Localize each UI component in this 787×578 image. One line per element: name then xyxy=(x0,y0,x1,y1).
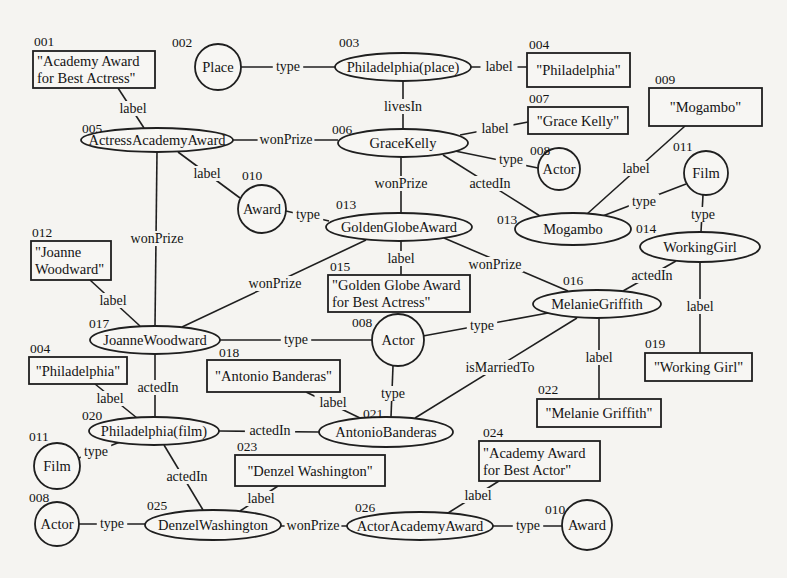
edge-label: actedIn xyxy=(631,268,672,283)
node-id: 001 xyxy=(34,34,54,49)
node-entity-006[interactable]: GraceKelly006 xyxy=(332,122,468,157)
node-literal-001[interactable]: "Academy Awardfor Best Actress"001 xyxy=(33,34,155,88)
edge-label: type xyxy=(632,194,656,209)
node-entity-026[interactable]: ActorAcademyAward026 xyxy=(347,500,493,540)
edge-label: actedIn xyxy=(137,380,178,395)
edge-label: actedIn xyxy=(166,469,207,484)
node-id: 013 xyxy=(336,197,357,212)
node-id: 025 xyxy=(147,498,168,513)
node-entity-021[interactable]: AntonioBanderas021 xyxy=(319,406,453,447)
node-class-010[interactable]: Award010 xyxy=(238,168,286,233)
node-id: 004 xyxy=(529,37,550,52)
node-label: Mogambo xyxy=(543,221,603,237)
node-id: 008 xyxy=(29,490,50,505)
edge-label: label xyxy=(115,88,152,128)
node-literal-015[interactable]: "Golden Globe Awardfor Best Actress"015 xyxy=(328,259,470,312)
node-label: "Golden Globe Award xyxy=(332,277,461,293)
node-id: 006 xyxy=(332,122,353,137)
node-class-010[interactable]: Award010 xyxy=(545,500,612,550)
edge-label: type xyxy=(381,386,405,401)
edge-label: wonPrize xyxy=(287,518,340,533)
node-id: 010 xyxy=(545,502,566,517)
node-id: 023 xyxy=(237,439,258,454)
edge-label: label xyxy=(481,121,508,136)
knowledge-graph-diagram: typelabellabellivesInwonPrizelabeltypeac… xyxy=(0,0,787,578)
node-id: 013 xyxy=(497,212,518,227)
edge-label: wonPrize xyxy=(131,231,184,246)
edge-type: type xyxy=(79,442,120,459)
node-id: 015 xyxy=(330,259,351,274)
node-label: Film xyxy=(692,165,720,181)
node-label: Film xyxy=(43,458,71,474)
node-id: 019 xyxy=(645,336,666,351)
node-label: AntonioBanderas xyxy=(335,424,437,440)
edge-label: label xyxy=(464,488,491,503)
edge-label: label xyxy=(686,299,713,314)
node-id: 010 xyxy=(242,168,263,183)
node-entity-013[interactable]: GoldenGlobeAward013 xyxy=(326,197,472,241)
node-literal-004[interactable]: "Philadelphia"004 xyxy=(527,37,630,87)
node-id: 004 xyxy=(30,341,51,356)
node-entity-003[interactable]: Philadelphia(place)003 xyxy=(335,35,471,81)
node-entity-013[interactable]: Mogambo013 xyxy=(497,212,631,245)
node-label: for Best Actress" xyxy=(37,70,136,86)
edge-label: label xyxy=(178,152,240,198)
edge-label: label xyxy=(96,391,123,406)
node-id: 022 xyxy=(538,382,558,397)
edge-label: type xyxy=(100,516,124,531)
node-label: Woodward" xyxy=(35,261,104,277)
node-id: 018 xyxy=(219,345,240,360)
edge-type: type xyxy=(79,516,145,531)
node-literal-012[interactable]: "JoanneWoodward"012 xyxy=(31,225,111,280)
node-id: 024 xyxy=(483,425,504,440)
edge-label: type xyxy=(516,518,540,533)
node-label: "Mogambo" xyxy=(670,99,742,115)
node-entity-014[interactable]: WorkingGirl014 xyxy=(636,221,760,262)
node-label: "Denzel Washington" xyxy=(247,463,372,479)
edge-type: type xyxy=(455,151,538,168)
node-literal-007[interactable]: "Grace Kelly"007 xyxy=(528,91,628,134)
node-id: 026 xyxy=(355,500,376,515)
node-label: "Academy Award xyxy=(483,445,586,461)
node-class-011[interactable]: Film011 xyxy=(29,429,80,489)
edge-actedin: actedIn xyxy=(133,354,183,417)
edge-label: livesIn xyxy=(384,99,422,114)
node-id: 007 xyxy=(529,91,550,106)
node-label: Place xyxy=(202,59,233,75)
node-class-008[interactable]: Actor008 xyxy=(530,143,580,190)
node-class-002[interactable]: Place002 xyxy=(172,35,241,90)
node-label: "Grace Kelly" xyxy=(537,113,619,129)
node-id: 016 xyxy=(563,273,584,288)
edge-label: label xyxy=(99,293,126,308)
node-label: ActorAcademyAward xyxy=(357,518,484,534)
node-id: 011 xyxy=(29,429,49,444)
node-label: GraceKelly xyxy=(370,135,438,151)
node-label: Actor xyxy=(542,161,575,177)
edge-label: label xyxy=(460,121,528,136)
node-label: "Working Girl" xyxy=(654,359,743,375)
node-label: GoldenGlobeAward xyxy=(341,219,458,235)
edge-label: label xyxy=(306,392,360,418)
node-literal-018[interactable]: "Antonio Banderas"018 xyxy=(207,345,340,392)
edge-label: isMarriedTo xyxy=(465,360,534,375)
edge-type: type xyxy=(688,195,718,232)
node-entity-020[interactable]: Philadelphia(film)020 xyxy=(82,408,219,445)
node-entity-005[interactable]: ActressAcademyAward005 xyxy=(81,121,233,152)
node-literal-019[interactable]: "Working Girl"019 xyxy=(645,336,752,381)
node-label: "Philadelphia" xyxy=(536,62,620,78)
node-literal-024[interactable]: "Academy Awardfor Best Actor"024 xyxy=(479,425,600,481)
node-literal-009[interactable]: "Mogambo"009 xyxy=(649,72,762,126)
edge-livesin: livesIn xyxy=(378,81,428,129)
edge-label: wonPrize xyxy=(260,132,313,147)
edge-label: wonPrize xyxy=(249,276,302,291)
edge-label: label xyxy=(682,262,719,353)
node-id: 012 xyxy=(32,225,52,240)
node-class-008[interactable]: Actor008 xyxy=(29,490,79,546)
edge-label: label xyxy=(581,318,618,399)
node-id: 002 xyxy=(172,35,192,50)
edge-label: label xyxy=(319,395,346,410)
node-label: "Academy Award xyxy=(37,53,140,69)
node-id: 008 xyxy=(530,143,551,158)
edge-label: label xyxy=(448,481,499,513)
node-label: for Best Actor" xyxy=(483,462,571,478)
